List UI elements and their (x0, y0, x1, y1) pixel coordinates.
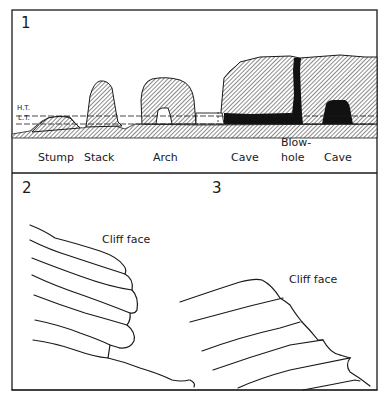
label-cave-1: Cave (231, 152, 259, 163)
stack-shape (86, 81, 122, 127)
label-stump: Stump (38, 152, 74, 163)
panel-3-drawing (12, 279, 377, 390)
panel-3-number: 3 (212, 181, 222, 196)
cave-2-shape (322, 100, 353, 124)
panel-2-drawing (30, 225, 189, 381)
label-arch: Arch (153, 152, 178, 163)
label-cave-2: Cave (324, 152, 352, 163)
label-cliff-face-3: Cliff face (289, 274, 337, 285)
low-tide-label: L.T. (18, 115, 30, 122)
panel-1-number: 1 (21, 16, 31, 31)
panel-2-number: 2 (22, 181, 32, 196)
high-tide-label: H.T. (17, 105, 30, 112)
label-blowhole-line2: hole (281, 152, 305, 163)
collapsed-block (196, 113, 224, 124)
coastal-landforms-figure: 1 2 3 H.T. L.T. Stump Stack Arch Cave Bl… (0, 0, 385, 400)
label-blowhole-line1: Blow- (281, 137, 311, 148)
label-cliff-face-2: Cliff face (102, 234, 150, 245)
figure-drawing (0, 0, 385, 400)
cave-1-shape (224, 113, 303, 124)
label-stack: Stack (84, 152, 114, 163)
panel-1-drawing (12, 55, 377, 138)
